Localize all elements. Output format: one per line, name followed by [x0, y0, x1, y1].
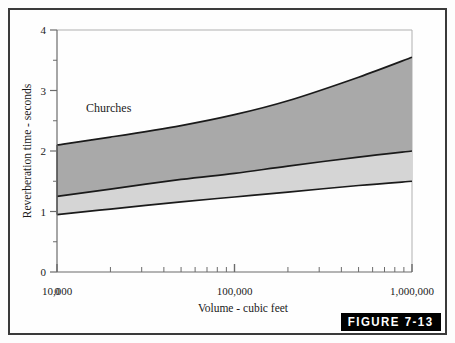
x-axis-tick-label: 1,000,000 — [390, 285, 435, 297]
figure-number-badge: FIGURE 7-13 — [341, 313, 441, 331]
y-axis-tick-label: 0 — [41, 266, 47, 278]
y-axis-title: Reverberation time - seconds — [21, 83, 33, 218]
y-axis-tick-labels: 01234 — [41, 24, 47, 278]
y-axis-ticks — [50, 30, 57, 272]
data-bands-group — [57, 57, 412, 214]
y-axis-tick-label: 3 — [41, 85, 47, 97]
series-annotation-churches: Churches — [86, 101, 132, 115]
x-axis-tick-label: 100,000 — [217, 285, 253, 297]
figure-container: 01234 10,000100,0001,000,000 0 Volume - … — [0, 0, 455, 343]
figure-number-label: FIGURE 7-13 — [348, 315, 434, 329]
x-axis-origin-label: 0 — [54, 285, 60, 297]
y-axis-tick-label: 2 — [41, 145, 47, 157]
x-axis: 10,000100,0001,000,000 0 — [42, 264, 435, 297]
x-axis-ticks — [57, 264, 412, 272]
y-axis-tick-label: 1 — [41, 206, 47, 218]
x-axis-title: Volume - cubic feet — [198, 302, 289, 314]
chart-plot-area: 01234 10,000100,0001,000,000 0 Volume - … — [0, 0, 455, 343]
x-axis-tick-labels: 10,000100,0001,000,000 — [42, 285, 435, 297]
y-axis-tick-label: 4 — [41, 24, 47, 36]
y-axis: 01234 — [41, 24, 58, 278]
